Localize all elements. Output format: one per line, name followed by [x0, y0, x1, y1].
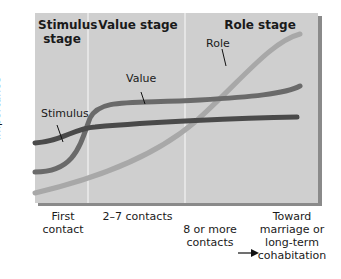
x-tick-first-contact: First contact [38, 210, 88, 236]
curve-label-role: Role [206, 37, 230, 50]
stage-label-stimulus: Stimulus stage [38, 18, 86, 46]
x-tick-8-or-more: 8 or more contacts [180, 223, 240, 249]
stimulus-curve [35, 117, 297, 143]
role-leader [222, 49, 226, 66]
x-tick-toward-marriage: Toward marriage or long-term cohabitatio… [256, 210, 328, 262]
y-axis-label: Importance [0, 77, 3, 140]
x-tick-2-7-contacts: 2–7 contacts [100, 210, 175, 223]
stage-label-role: Role stage [220, 18, 300, 32]
value-curve [35, 86, 300, 172]
curve-label-value: Value [126, 72, 156, 85]
stage-label-value: Value stage [96, 18, 180, 32]
curve-label-stimulus: Stimulus [41, 107, 89, 120]
